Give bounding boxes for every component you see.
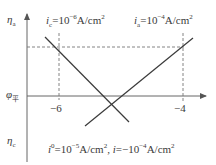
bottom-annotation: i0=10−5A/cm2, i=−10−4A/cm2 [48, 144, 175, 155]
unit-exponent: 2 [171, 142, 175, 150]
ic-annotation: ic=10−6A/cm2 [46, 15, 105, 26]
unit: A/cm [165, 14, 189, 26]
subscript: a [12, 20, 15, 28]
unit-exponent: 2 [101, 13, 105, 21]
unit-exponent: 2 [189, 13, 193, 21]
exponent: −4 [157, 13, 164, 21]
equals-value: =10 [140, 14, 157, 26]
unit: A/cm [79, 143, 103, 155]
equals-value: =10 [55, 143, 72, 155]
exponent: −4 [139, 142, 146, 150]
tick-label-left: −6 [50, 103, 62, 114]
equals-value: =10 [52, 14, 69, 26]
y-axis-bottom-label: ηc [7, 135, 16, 146]
y-axis-mid-label: φ平 [6, 89, 19, 100]
equals-value: =−10 [116, 143, 139, 155]
subscript: 平 [12, 95, 19, 103]
subscript: c [12, 141, 15, 149]
exponent: −6 [69, 13, 76, 21]
tick-label-right: −4 [174, 103, 186, 114]
unit: A/cm [77, 14, 101, 26]
y-axis-top-label: ηa [7, 14, 16, 25]
ia-annotation: ia=10−4A/cm2 [134, 15, 193, 26]
unit: A/cm [147, 143, 171, 155]
